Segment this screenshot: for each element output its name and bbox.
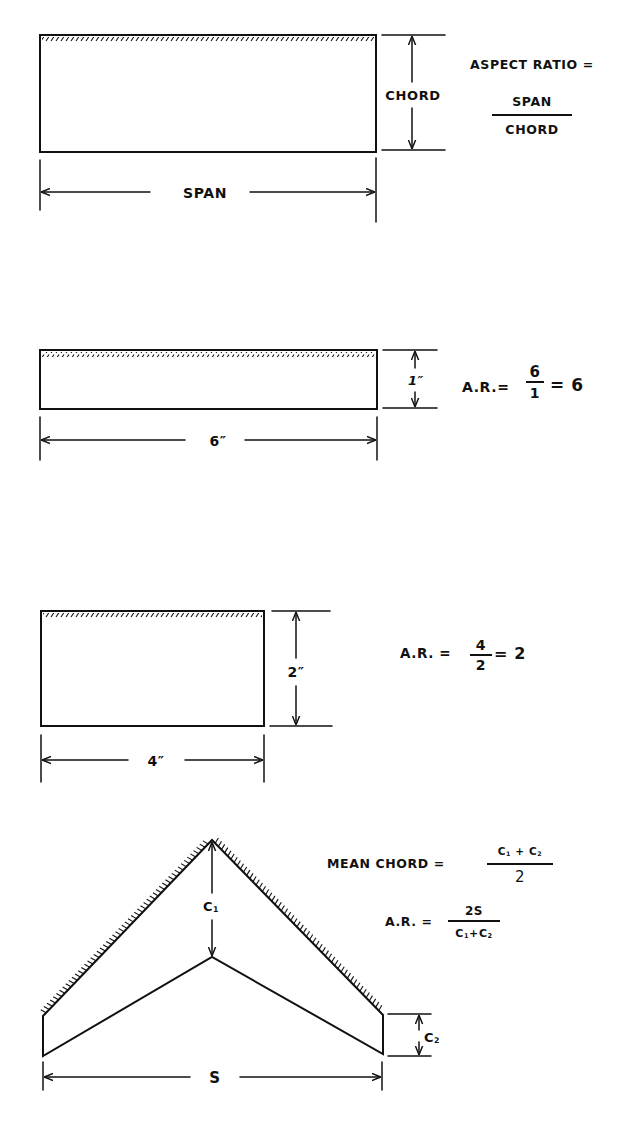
leading-edge-hatch-1: [42, 37, 374, 42]
figure-1-rectangular-wing: [40, 35, 445, 222]
figure-2-wing-6x1: [40, 350, 437, 460]
wing-planform-2: [40, 350, 377, 409]
wing-planform-4: [43, 840, 383, 1056]
aspect-ratio-diagram: CHORD SPAN ASPECT RATIO = SPAN CHORD 1″ …: [0, 0, 643, 1125]
figure-3-wing-4x2: [41, 611, 332, 782]
leading-edge-hatch-3: [43, 613, 262, 618]
wing-planform-3: [41, 611, 264, 726]
figure-4-swept-wing: [41, 838, 431, 1090]
leading-edge-hatch-2: [42, 352, 375, 357]
wing-planform-1: [40, 35, 376, 152]
